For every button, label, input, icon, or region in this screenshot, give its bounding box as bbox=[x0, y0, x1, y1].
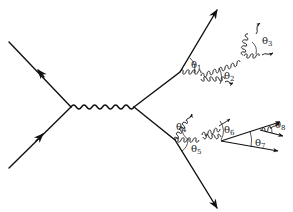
label-theta3: θ3 bbox=[262, 35, 273, 48]
gluon-5-end bbox=[262, 53, 273, 55]
arc-theta3 bbox=[252, 42, 256, 54]
gluon-5 bbox=[244, 54, 259, 59]
upper-quark-line bbox=[134, 10, 217, 107]
feynman-diagram: θ1 θ2 θ3 θ4 θ5 θ6 θ7 θ8 bbox=[0, 0, 293, 212]
gluon-4 bbox=[241, 34, 248, 55]
gluon-9 bbox=[203, 134, 221, 139]
gluon-6-end bbox=[186, 114, 192, 121]
label-theta5: θ5 bbox=[191, 143, 202, 156]
boson-propagator bbox=[71, 105, 134, 109]
split-quark-line-bottom bbox=[221, 141, 278, 151]
label-theta8: θ8 bbox=[275, 119, 286, 132]
arrow-icon bbox=[36, 134, 43, 141]
label-theta6: θ6 bbox=[224, 124, 235, 137]
incoming-antifermion-line bbox=[9, 42, 71, 107]
gluon-8 bbox=[202, 128, 220, 136]
diagram-svg: θ1 θ2 θ3 θ4 θ5 θ6 θ7 θ8 bbox=[0, 0, 293, 212]
label-theta7: θ7 bbox=[255, 137, 266, 150]
split-quark-line-mid bbox=[260, 130, 283, 136]
gluon-4-end bbox=[256, 23, 260, 34]
arc-theta5 bbox=[182, 140, 188, 151]
arc-theta7 bbox=[250, 131, 252, 147]
